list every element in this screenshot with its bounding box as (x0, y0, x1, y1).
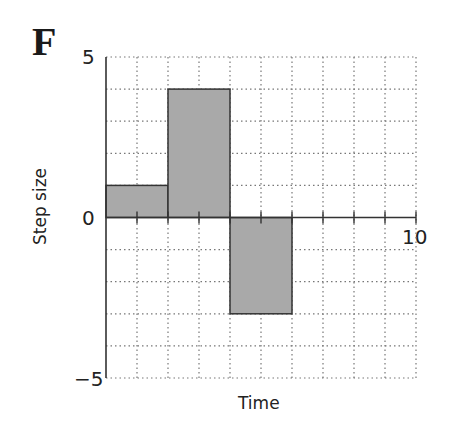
axes (106, 57, 416, 378)
step-bars (106, 89, 292, 314)
plot-area (0, 0, 450, 433)
